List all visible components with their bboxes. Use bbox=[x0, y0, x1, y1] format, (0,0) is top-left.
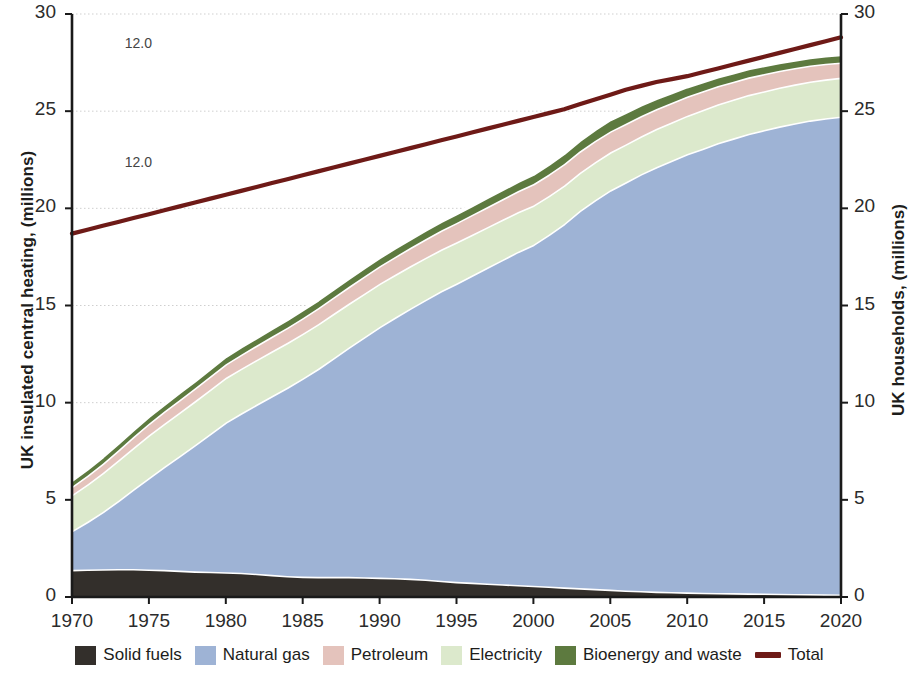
legend-item[interactable]: Bioenergy and waste bbox=[555, 645, 742, 665]
y-tick-label-right: 20 bbox=[854, 195, 894, 217]
x-tick-label: 2000 bbox=[498, 610, 568, 632]
x-tick-label: 2020 bbox=[806, 610, 876, 632]
legend-label: Natural gas bbox=[223, 645, 310, 665]
x-tick-label: 1970 bbox=[37, 610, 107, 632]
legend-item[interactable]: Electricity bbox=[441, 645, 542, 665]
legend-label: Solid fuels bbox=[103, 645, 181, 665]
x-tick-label: 1990 bbox=[345, 610, 415, 632]
x-tick-label: 1995 bbox=[422, 610, 492, 632]
x-tick-label: 2005 bbox=[575, 610, 645, 632]
y-tick-label-left: 30 bbox=[16, 1, 56, 23]
y-tick-label-right: 0 bbox=[854, 584, 894, 606]
x-tick-label: 1980 bbox=[191, 610, 261, 632]
legend-label: Bioenergy and waste bbox=[583, 645, 742, 665]
plot-annotation: 12.0 bbox=[125, 154, 152, 170]
legend-label: Electricity bbox=[469, 645, 542, 665]
y-tick-label-left: 20 bbox=[16, 195, 56, 217]
x-tick-label: 1985 bbox=[268, 610, 338, 632]
y-tick-label-right: 5 bbox=[854, 487, 894, 509]
legend-label: Petroleum bbox=[351, 645, 428, 665]
x-tick-label: 2015 bbox=[729, 610, 799, 632]
x-tick-label: 2010 bbox=[652, 610, 722, 632]
legend-color-swatch bbox=[555, 646, 576, 665]
y-tick-label-left: 10 bbox=[16, 390, 56, 412]
y-tick-label-right: 30 bbox=[854, 1, 894, 23]
legend-item[interactable]: Total bbox=[755, 645, 824, 665]
y-tick-label-left: 25 bbox=[16, 98, 56, 120]
plot-annotation: 12.0 bbox=[125, 35, 152, 51]
legend-item[interactable]: Solid fuels bbox=[75, 645, 181, 665]
legend-color-swatch bbox=[323, 646, 344, 665]
y-tick-label-left: 5 bbox=[16, 487, 56, 509]
y-tick-label-right: 15 bbox=[854, 293, 894, 315]
y-tick-label-left: 15 bbox=[16, 293, 56, 315]
legend-color-swatch bbox=[195, 646, 216, 665]
legend-item[interactable]: Natural gas bbox=[195, 645, 310, 665]
legend-color-swatch bbox=[75, 646, 96, 665]
legend-label: Total bbox=[788, 645, 824, 665]
legend-line-swatch bbox=[755, 652, 781, 658]
y-tick-label-left: 0 bbox=[16, 584, 56, 606]
y-tick-label-right: 10 bbox=[854, 390, 894, 412]
legend-item[interactable]: Petroleum bbox=[323, 645, 428, 665]
y-tick-label-right: 25 bbox=[854, 98, 894, 120]
legend-color-swatch bbox=[441, 646, 462, 665]
chart-legend: Solid fuelsNatural gasPetroleumElectrici… bbox=[0, 645, 899, 665]
x-tick-label: 1975 bbox=[114, 610, 184, 632]
